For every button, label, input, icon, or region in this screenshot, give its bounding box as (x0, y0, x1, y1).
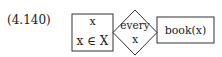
quantifier-label: every (120, 19, 149, 31)
drs-diagram: x x ∈ X every x book(x) (0, 0, 222, 57)
left-box-referent: x (89, 15, 96, 28)
quantifier-variable: x (132, 33, 139, 46)
left-box-condition: x ∈ X (77, 34, 109, 48)
right-box-condition: book(x) (165, 24, 207, 37)
